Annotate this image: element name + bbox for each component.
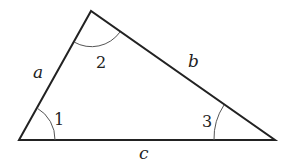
angle-1-arc [37,108,55,140]
triangle-diagram: a b c 1 2 3 [0,0,289,166]
side-b-label: b [188,51,199,71]
side-c-label: c [139,143,149,163]
angle-3-arc [214,105,224,140]
angle-2-label: 2 [96,53,106,72]
side-a-label: a [33,62,43,82]
angle-1-label: 1 [54,110,64,129]
angle-2-arc [74,32,120,47]
angle-3-label: 3 [202,112,212,131]
triangle-figure: a b c 1 2 3 [0,0,289,166]
